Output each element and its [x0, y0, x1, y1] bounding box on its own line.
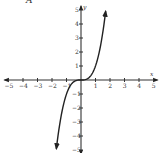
cubic-function-graph: −5−4−3−2−112345−5−4−3−2−112345 x y	[0, 0, 159, 153]
x-tick-label: 1	[94, 82, 98, 89]
x-axis-label: x	[150, 70, 154, 77]
x-tick-label: 4	[137, 82, 141, 89]
x-tick-label: −3	[34, 82, 43, 89]
x-tick-label: −4	[19, 82, 28, 89]
y-tick-label: 3	[75, 34, 79, 41]
y-tick-label: 2	[75, 48, 79, 55]
y-tick-label: 4	[75, 20, 79, 27]
y-tick-label: −3	[72, 118, 81, 125]
x-tick-label: 3	[123, 82, 127, 89]
x-tick-label: 5	[152, 82, 156, 89]
x-tick-label: −5	[5, 82, 14, 89]
y-axis-label: y	[82, 3, 87, 11]
y-tick-label: −5	[72, 146, 81, 153]
y-tick-label: 1	[75, 62, 79, 69]
y-tick-label: −2	[72, 104, 81, 111]
y-tick-label: 5	[75, 6, 79, 13]
x-tick-label: 2	[108, 82, 112, 89]
x-tick-label: −2	[48, 82, 57, 89]
y-tick-label: −4	[72, 132, 81, 139]
y-tick-label: −1	[72, 90, 81, 97]
